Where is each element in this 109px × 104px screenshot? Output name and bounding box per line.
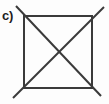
figure-container: c) xyxy=(0,0,109,104)
figure-label: c) xyxy=(2,8,13,24)
square-with-diagonals-diagram xyxy=(0,0,109,104)
